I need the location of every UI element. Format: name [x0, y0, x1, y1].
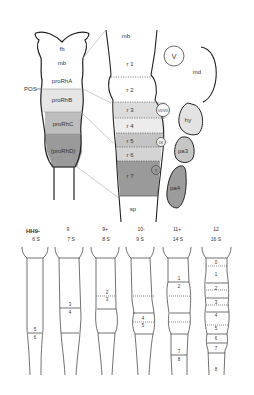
seg-label-c1-b: 6	[34, 335, 37, 340]
somite-label-2: 7 S	[67, 236, 75, 242]
rhombomere-r5-fill	[116, 133, 163, 147]
somite-label-3: 8 S	[102, 236, 110, 242]
seg-label-c6-0: 0	[215, 260, 218, 265]
seg-label-c6-8: 8	[215, 367, 218, 372]
stage-label-5: 11+	[173, 226, 181, 232]
label-pos: POS	[24, 86, 37, 92]
seg-label-c3-b: 3	[106, 297, 109, 302]
label-mb-hindbrain: mb	[122, 33, 131, 39]
label-r6: r 6	[126, 152, 134, 158]
label-pa3: pa3	[178, 148, 189, 154]
label-ganglion-ix: IX	[159, 140, 163, 145]
seg-label-c4-b: 5	[142, 323, 145, 328]
stage-label-2: 9	[67, 226, 70, 232]
seg-label-c6-1: 1	[215, 272, 218, 277]
seg-label-c2-a: 3	[69, 302, 72, 307]
label-prorhc: proRhC	[53, 121, 74, 127]
label-ganglion-x: X	[155, 168, 158, 173]
label-prorhd: (proRhD)	[51, 148, 76, 154]
label-mb-left: mb	[58, 60, 67, 66]
stage-label-1: HH9-	[26, 228, 40, 234]
label-r1: r 1	[126, 61, 134, 67]
hindbrain-segmentation-diagram: fb mb proRhA proRhB proRhC (proRhD) POS	[0, 0, 254, 395]
somite-label-1: 6 S	[32, 236, 40, 242]
stage-series: HH9- 6 S 9 7 S 9+ 8 S 10- 9 S 11+ 14 S 1…	[22, 226, 231, 375]
somite-label-5: 14 S	[173, 236, 184, 242]
label-r7: r 7	[126, 173, 134, 179]
label-pa4: pa4	[170, 185, 181, 191]
label-prorha: proRhA	[52, 78, 72, 84]
seg-label-c6-6: 6	[215, 336, 218, 341]
label-fb: fb	[59, 46, 65, 52]
stage-label-4: 10-	[137, 226, 145, 232]
rhombomere-r4-fill	[115, 118, 165, 133]
somite-label-6: 16 S	[211, 236, 222, 242]
label-r4: r 4	[126, 123, 134, 129]
seg-label-c6-7: 7	[215, 346, 218, 351]
label-hy: hy	[185, 117, 191, 123]
seg-label-c5-c: 7	[178, 349, 181, 354]
label-sp: sp	[130, 206, 137, 212]
pharyngeal-arches: md hy pa3 pa4	[167, 47, 216, 208]
rhombomere-r6-fill	[117, 147, 161, 161]
seg-label-c6-2: 2	[215, 286, 218, 291]
label-md: md	[193, 69, 201, 75]
seg-label-c5-d: 8	[178, 357, 181, 362]
neural-tube-schematic: fb mb proRhA proRhB proRhC (proRhD) POS	[24, 32, 89, 200]
seg-label-c4-a: 4	[142, 316, 145, 321]
seg-label-c2-b: 4	[69, 310, 72, 315]
stage-label-3: 9+	[102, 226, 108, 232]
seg-label-c6-4: 4	[215, 313, 218, 318]
label-ganglion-vii-viii: VII/VIII	[158, 109, 169, 113]
seg-label-c3-a: 2	[106, 290, 109, 295]
label-prorhb: proRhB	[52, 97, 72, 103]
seg-label-c6-5: 5	[215, 326, 218, 331]
seg-label-c5-b: 2	[178, 284, 181, 289]
stage-label-6: 12	[213, 226, 219, 232]
label-r3: r 3	[126, 107, 134, 113]
label-r5: r 5	[126, 138, 134, 144]
hindbrain-rhombomeres: mb r 1 r 2 r 3 r 4 r 5 r 6 r 7 sp	[106, 30, 166, 222]
seg-label-c1-a: 5	[34, 327, 37, 332]
arch-md-outline	[201, 47, 216, 102]
label-r2: r 2	[126, 87, 134, 93]
label-ganglion-v: V	[172, 53, 177, 60]
seg-label-c6-3: 3	[215, 300, 218, 305]
seg-label-c5-a: 1	[178, 276, 181, 281]
somite-label-4: 9 S	[136, 236, 144, 242]
